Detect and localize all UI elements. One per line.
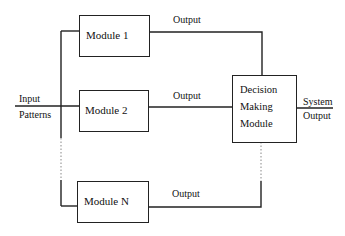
module-1-output-label: Output xyxy=(173,14,201,25)
module-2-output-label: Output xyxy=(173,90,201,101)
decision-making-module-box: Decision Making Module xyxy=(232,75,297,143)
module-2-box: Module 2 xyxy=(79,90,149,132)
module-n-output-label: Output xyxy=(172,188,200,199)
system-output-label: Output xyxy=(303,110,331,121)
module-1-box: Module 1 xyxy=(79,15,150,57)
decision-line-1: Decision xyxy=(240,84,277,96)
input-label: Input xyxy=(19,93,40,104)
decision-line-2: Making xyxy=(240,101,273,113)
module-2-label: Module 2 xyxy=(85,104,127,116)
patterns-label: Patterns xyxy=(19,109,51,120)
module-1-label: Module 1 xyxy=(86,29,128,41)
system-label: System xyxy=(303,96,332,107)
module-n-box: Module N xyxy=(77,181,149,223)
decision-line-3: Module xyxy=(240,118,273,130)
module-n-label: Module N xyxy=(84,195,129,207)
